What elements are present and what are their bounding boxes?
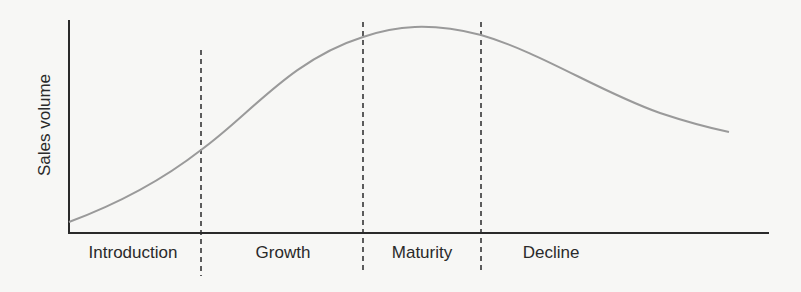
y-axis-label: Sales volume (35, 74, 55, 176)
stage-label-maturity: Maturity (392, 243, 452, 263)
sales-curve (69, 27, 729, 222)
stage-label-growth: Growth (256, 243, 311, 263)
stage-label-decline: Decline (523, 243, 580, 263)
stage-label-introduction: Introduction (89, 243, 178, 263)
